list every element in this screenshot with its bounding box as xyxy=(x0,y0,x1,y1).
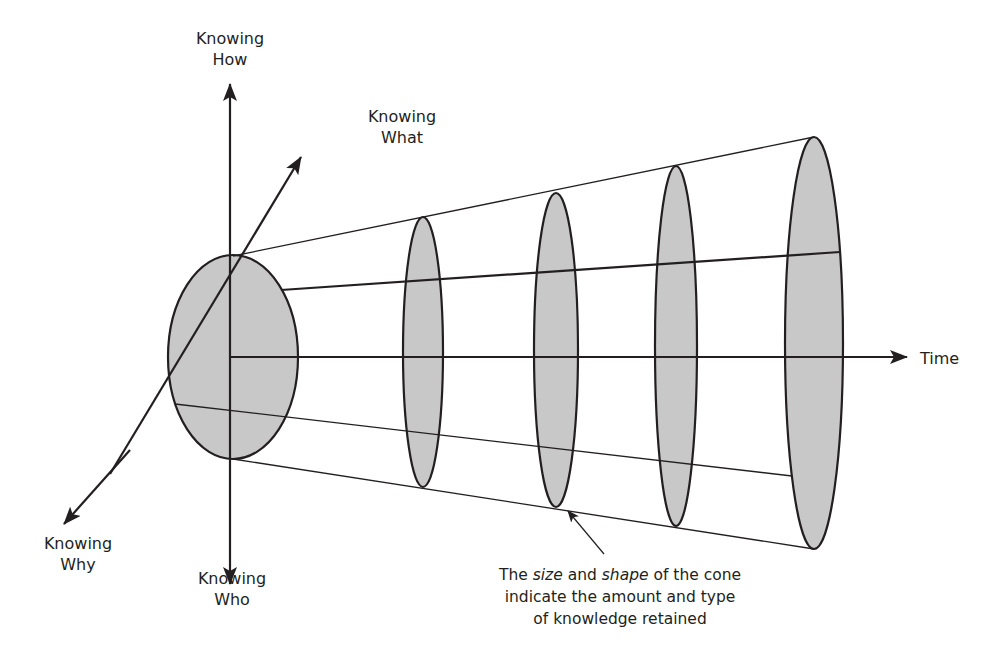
knowing-what-final xyxy=(182,157,301,400)
knowing-what-axis-arrow xyxy=(178,157,301,402)
knowing-what-segment xyxy=(230,158,301,351)
knowing-how-label: Knowing How xyxy=(190,28,270,70)
knowing-why-line1: Knowing xyxy=(38,533,118,554)
knowing-who-label: Knowing Who xyxy=(192,568,272,610)
caption-text: The xyxy=(499,566,533,584)
what-why-diagonal xyxy=(65,158,300,524)
knowing-why-line xyxy=(64,450,130,524)
what-arrow xyxy=(175,158,300,405)
caption-shape-word: shape xyxy=(602,566,649,584)
knowing-who-line1: Knowing xyxy=(192,568,272,589)
knowing-how-line1: Knowing xyxy=(190,28,270,49)
diag-up xyxy=(180,158,301,401)
caption-text: and xyxy=(563,566,602,584)
caption-size-word: size xyxy=(533,566,563,584)
caption-line-1: The size and shape of the cone xyxy=(470,564,770,586)
knowing-what-label: Knowing What xyxy=(362,106,442,148)
diagonal-axis-layer xyxy=(0,0,996,660)
knowing-what-vector xyxy=(230,158,300,345)
caption: The size and shape of the cone indicate … xyxy=(470,564,770,630)
knowing-what-line xyxy=(110,157,301,474)
caption-text: of the cone xyxy=(649,566,742,584)
knowing-why-line2: Why xyxy=(38,554,118,575)
time-label: Time xyxy=(920,348,959,369)
knowing-why-what-line xyxy=(65,157,301,524)
caption-line-3: of knowledge retained xyxy=(470,608,770,630)
knowing-who-line2: Who xyxy=(192,589,272,610)
caption-line-2: indicate the amount and type xyxy=(470,586,770,608)
knowing-what-line1: Knowing xyxy=(362,106,442,127)
knowing-what-axis-visible xyxy=(176,158,300,403)
knowing-how-line2: How xyxy=(190,49,270,70)
knowing-why-label: Knowing Why xyxy=(38,533,118,575)
time-text: Time xyxy=(920,348,959,369)
knowing-what-line2: What xyxy=(362,127,442,148)
